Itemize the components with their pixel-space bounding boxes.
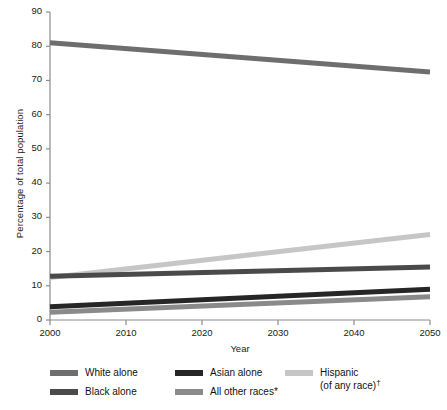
y-axis-tick-label: 20 xyxy=(16,245,42,256)
y-axis-tick-label: 60 xyxy=(16,108,42,119)
y-axis-tick-label: 90 xyxy=(16,5,42,16)
y-axis-tick-label: 30 xyxy=(16,210,42,221)
chart-legend: White aloneBlack aloneAsian aloneAll oth… xyxy=(0,366,447,410)
legend-entry[interactable]: Hispanic(of any race)† xyxy=(285,366,381,381)
legend-swatch-icon xyxy=(285,370,313,376)
legend-label: All other races* xyxy=(210,385,278,398)
legend-swatch-icon xyxy=(50,370,78,376)
legend-swatch-icon xyxy=(175,370,203,376)
y-axis-tick-label: 70 xyxy=(16,73,42,84)
y-axis-tick-label: 50 xyxy=(16,142,42,153)
y-axis-tick-label: 40 xyxy=(16,176,42,187)
x-axis-tick-label: 2010 xyxy=(104,327,148,338)
x-axis-title: Year xyxy=(50,343,430,354)
legend-label: Hispanic(of any race)† xyxy=(320,366,381,392)
y-axis-tick-label: 10 xyxy=(16,279,42,290)
dagger-footnote-marker: † xyxy=(376,378,380,387)
legend-swatch-icon xyxy=(175,389,203,395)
y-axis-tick-label: 0 xyxy=(16,313,42,324)
x-axis-tick-label: 2050 xyxy=(408,327,447,338)
x-axis-tick-label: 2020 xyxy=(180,327,224,338)
plot-svg xyxy=(0,0,447,330)
y-axis-tick-label: 80 xyxy=(16,39,42,50)
legend-entry[interactable]: Black alone xyxy=(50,385,138,400)
legend-entry[interactable]: All other races* xyxy=(175,385,278,400)
legend-column: White aloneBlack alone xyxy=(50,366,138,404)
x-axis-tick-label: 2040 xyxy=(332,327,376,338)
legend-swatch-icon xyxy=(50,389,78,395)
population-projection-chart: Percentage of total population 010203040… xyxy=(0,0,447,410)
series-line xyxy=(50,43,430,72)
legend-entry[interactable]: White alone xyxy=(50,366,138,381)
legend-label: White alone xyxy=(85,366,138,379)
plot-area: Percentage of total population 010203040… xyxy=(0,0,447,330)
legend-label: Black alone xyxy=(85,385,137,398)
legend-column: Asian aloneAll other races* xyxy=(175,366,278,404)
x-axis-tick-label: 2000 xyxy=(28,327,72,338)
legend-label: Asian alone xyxy=(210,366,262,379)
x-axis-tick-label: 2030 xyxy=(256,327,300,338)
legend-label-secondary: (of any race)† xyxy=(320,379,381,392)
legend-entry[interactable]: Asian alone xyxy=(175,366,278,381)
legend-column: Hispanic(of any race)† xyxy=(285,366,381,385)
